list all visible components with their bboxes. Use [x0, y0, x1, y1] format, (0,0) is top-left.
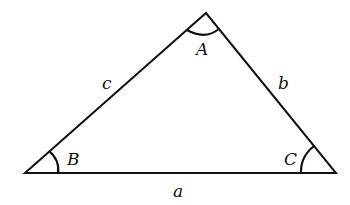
side-label-b: b	[278, 73, 289, 93]
angle-arc-c	[301, 146, 314, 174]
vertex-label-c: C	[284, 149, 297, 169]
side-label-a: a	[173, 181, 183, 201]
angle-arc-a	[187, 29, 219, 35]
side-label-c: c	[102, 73, 112, 93]
triangle-diagram: A B C c b a	[0, 0, 350, 205]
angle-arc-b	[49, 151, 58, 174]
vertex-label-a: A	[194, 39, 208, 59]
vertex-label-b: B	[66, 149, 80, 169]
